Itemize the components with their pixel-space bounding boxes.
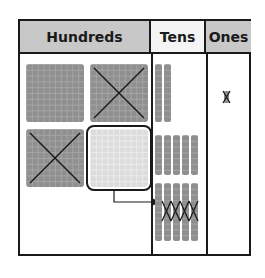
cross-out-icon xyxy=(20,21,253,258)
place-value-chart: Hundreds Tens Ones xyxy=(18,19,251,256)
cross-out-icon xyxy=(220,90,233,104)
